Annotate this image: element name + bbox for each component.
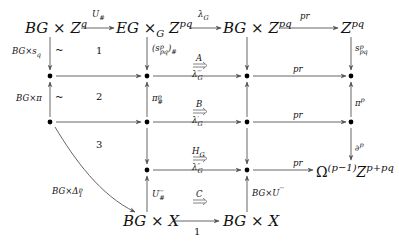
node-text: Z (357, 164, 367, 180)
label-del-p: ∂p (355, 142, 364, 153)
dot-r2c3 (245, 120, 250, 125)
cell-2: 2 (96, 92, 102, 102)
label-sub: pq (160, 50, 168, 55)
node-sub: G (156, 28, 164, 39)
label-one: 1 (194, 227, 200, 237)
label-sub: pq (359, 50, 367, 55)
dot-r1c3 (245, 74, 250, 79)
label-pi-hash: πp# (152, 94, 163, 105)
two-cell-a-lambda: λ′′′G (192, 70, 203, 81)
label-sub: G (199, 151, 204, 159)
two-cell-b-lambda: λ′G (192, 116, 203, 127)
cell-1: 1 (96, 46, 102, 56)
label-sub: # (171, 48, 176, 56)
node-text: Z (341, 19, 351, 37)
dot-r2c2 (145, 120, 150, 125)
label-u-triple-hash: U′′′# (152, 190, 165, 201)
dot-r1c2 (145, 74, 150, 79)
node-bg-x-zpq: BG × Zpq (223, 19, 292, 36)
label-bg-x-sq: BG×sq (12, 47, 41, 59)
label-u-hash: U# (92, 10, 105, 22)
dot-r1c1 (48, 74, 53, 79)
label-sub: 1 (78, 193, 82, 198)
label-sub: q (37, 51, 41, 59)
label-lambda-g: λG (198, 10, 209, 22)
node-bg-x-x-left: BG × X (123, 214, 179, 229)
label-pr-row2: pr (293, 111, 303, 120)
label-s-pq-right: sppq (355, 44, 368, 55)
node-sup: (p−1) (328, 162, 357, 173)
label-text: BG×s (12, 46, 37, 56)
tilde-2: ~ (55, 92, 63, 102)
label-text: (s (152, 43, 160, 53)
node-bg-x-x-right: BG × X (223, 214, 279, 229)
dot-r2c4 (349, 120, 354, 125)
label-bg-x-delta: BG×Δp1 (52, 187, 83, 198)
label-s-hash: (sppq)# (152, 44, 177, 56)
label-text: BG×U (252, 188, 279, 198)
label-bg-x-pi: BG×π (16, 94, 42, 103)
two-cell-a-label: A (196, 54, 202, 63)
label-pr-row3: pr (293, 159, 303, 168)
cell-3: 3 (96, 140, 102, 150)
label-sup: p (361, 96, 365, 104)
tilde-1: ~ (55, 45, 63, 55)
two-cell-c-label: C (196, 190, 203, 199)
label-bg-x-u-triple: BG×U′′′ (252, 187, 284, 198)
label-sup: p (359, 141, 363, 149)
node-text: BG × Z (25, 19, 81, 37)
dot-r3c3 (245, 168, 250, 173)
two-cell-hg-label: HG (192, 147, 205, 159)
node-text: Ω (316, 164, 328, 180)
node-text: Z (169, 19, 179, 37)
label-sub: # (99, 14, 104, 22)
label-pi-p-right: πp (355, 97, 365, 108)
node-zpq: Zpq (341, 19, 364, 36)
node-text: BG × Z (223, 19, 279, 37)
node-sup: q (81, 18, 87, 29)
node-sup: pq (351, 18, 364, 29)
label-pr-row1: pr (293, 65, 303, 74)
label-sub: G (197, 122, 202, 127)
label-sub: G (197, 76, 202, 81)
label-sub: # (158, 100, 163, 105)
node-bg-x-zq: BG × Zq (25, 19, 87, 36)
two-cell-hg-lambda: λ′′G (192, 163, 203, 174)
node-sup: p+pq (366, 162, 394, 173)
dot-r3c2 (145, 168, 150, 173)
node-sup: pq (180, 18, 193, 29)
label-text: BG×Δ (52, 186, 78, 196)
dot-r2c1 (48, 120, 53, 125)
label-sup: ′′′ (279, 186, 283, 194)
node-sup: pq (279, 18, 292, 29)
label-text: U (152, 189, 159, 199)
label-pr-top: pr (300, 12, 310, 21)
two-cell-b-label: B (196, 100, 202, 109)
node-text: EG × (116, 19, 156, 37)
label-sub: # (159, 196, 164, 201)
label-sub: G (203, 14, 208, 22)
dot-r1c4 (349, 74, 354, 79)
node-omega: Ω(p−1)Zp+pq (316, 163, 394, 179)
label-sub: G (197, 169, 202, 174)
node-eg-xg-zpq: EG ×G Zpq (116, 19, 192, 39)
